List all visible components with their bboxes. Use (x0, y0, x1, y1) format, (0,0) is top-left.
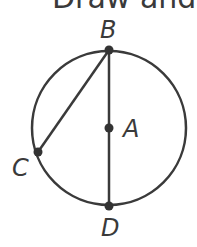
label-a: A (121, 115, 139, 143)
label-d: D (101, 214, 119, 242)
label-b: B (100, 16, 116, 44)
point-a (105, 124, 114, 133)
point-b (105, 46, 114, 55)
point-d (105, 202, 114, 211)
circle-diagram: Draw and la B A C D (0, 0, 197, 247)
point-c (34, 148, 43, 157)
label-c: C (12, 154, 29, 182)
chord-bc (38, 50, 109, 152)
title-fragment: Draw and la (52, 0, 197, 15)
